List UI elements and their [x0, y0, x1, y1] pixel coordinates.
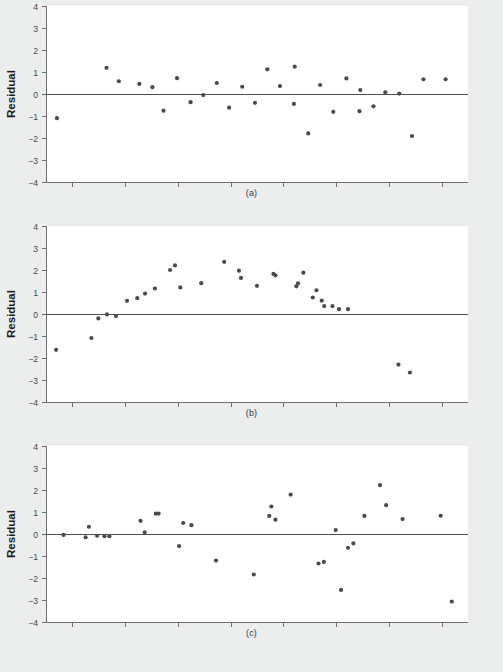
panel-a-xaxis	[46, 183, 468, 188]
data-point	[107, 534, 111, 538]
data-point	[316, 561, 320, 565]
panel-a-chart: Residual 4 3 2 1 0 −1 −2 −3 −4	[0, 0, 503, 196]
panel-c-ytick-4: 0	[33, 530, 38, 540]
data-point	[104, 66, 108, 70]
data-point	[322, 560, 326, 564]
data-point	[255, 284, 259, 288]
panel-b-yaxis: 4 3 2 1 0 −1 −2 −3 −4	[28, 222, 46, 408]
panel-b-xaxis	[46, 403, 468, 408]
data-point	[306, 131, 310, 135]
data-point	[150, 85, 154, 89]
panel-a: Residual 4 3 2 1 0 −1 −2 −3 −4	[0, 0, 503, 196]
panel-a-yaxis: 4 3 2 1 0 −1 −2 −3 −4	[28, 2, 46, 188]
data-point	[351, 541, 355, 545]
panel-c-ytick-6: −2	[28, 574, 38, 584]
data-point	[189, 523, 193, 527]
data-point	[240, 85, 244, 89]
data-point	[314, 288, 318, 292]
panel-a-ytick-6: −2	[28, 134, 38, 144]
panel-b-ytick-8: −4	[28, 398, 38, 408]
panel-b-chart: Residual 4 3 2 1 0 −1 −2 −3 −4	[0, 220, 503, 416]
data-point	[410, 134, 414, 138]
data-point	[89, 336, 93, 340]
data-point	[61, 533, 65, 537]
data-point	[292, 102, 296, 106]
data-point	[371, 104, 375, 108]
panel-b-ylabel: Residual	[5, 290, 17, 338]
data-point	[105, 312, 109, 316]
data-point	[214, 559, 218, 563]
panel-a-xticks	[73, 183, 443, 188]
panel-b-ytick-4: 0	[33, 310, 38, 320]
data-point	[199, 281, 203, 285]
panel-b-xticks	[73, 403, 443, 408]
panel-c-ylabel: Residual	[5, 510, 17, 558]
data-point	[301, 271, 305, 275]
data-point	[188, 100, 192, 104]
data-point	[153, 286, 157, 290]
data-point	[178, 285, 182, 289]
data-point	[346, 307, 350, 311]
data-point	[175, 76, 179, 80]
data-point	[444, 77, 448, 81]
panel-a-ytick-8: −4	[28, 178, 38, 188]
panel-c-xaxis	[46, 623, 468, 628]
data-point	[265, 67, 269, 71]
data-point	[137, 82, 141, 86]
data-point	[201, 93, 205, 97]
panel-c-xticks	[73, 623, 443, 628]
data-point	[138, 519, 142, 523]
data-point	[296, 281, 300, 285]
panel-b-ytick-2: 2	[33, 266, 38, 276]
panel-a-ytick-2: 2	[33, 46, 38, 56]
panel-a-ytick-5: −1	[28, 112, 38, 122]
data-point	[269, 504, 273, 508]
panel-a-ytick-1: 3	[33, 24, 38, 34]
data-point	[143, 291, 147, 295]
data-point	[344, 76, 348, 80]
panel-b-ytick-1: 3	[33, 244, 38, 254]
data-point	[222, 260, 226, 264]
panel-c-caption: (c)	[0, 628, 503, 638]
panel-c-ytick-1: 3	[33, 464, 38, 474]
data-point	[227, 106, 231, 110]
data-point	[331, 110, 335, 114]
data-point	[358, 88, 362, 92]
data-point	[362, 514, 366, 518]
data-point	[84, 535, 88, 539]
data-point	[273, 518, 277, 522]
data-point	[173, 263, 177, 267]
data-point	[143, 530, 147, 534]
panel-a-ylabel: Residual	[5, 70, 17, 118]
data-point	[177, 544, 181, 548]
data-point	[273, 273, 277, 277]
panel-a-caption: (a)	[0, 188, 503, 198]
panel-b-caption: (b)	[0, 408, 503, 418]
data-point	[157, 511, 161, 515]
data-point	[253, 101, 257, 105]
data-point	[267, 514, 271, 518]
data-point	[96, 316, 100, 320]
panel-b-ytick-7: −3	[28, 376, 38, 386]
data-point	[252, 572, 256, 576]
data-point	[311, 295, 315, 299]
data-point	[439, 514, 443, 518]
panel-a-ytick-0: 4	[33, 2, 38, 12]
panel-b-ytick-3: 1	[33, 288, 38, 298]
data-point	[55, 116, 59, 120]
data-point	[346, 546, 350, 550]
data-point	[357, 109, 361, 113]
figure-root: Residual 4 3 2 1 0 −1 −2 −3 −4	[0, 0, 503, 672]
data-point	[289, 493, 293, 497]
data-point	[339, 588, 343, 592]
panel-c-ytick-7: −3	[28, 596, 38, 606]
data-point	[114, 314, 118, 318]
data-point	[330, 304, 334, 308]
data-point	[450, 599, 454, 603]
data-point	[181, 521, 185, 525]
data-point	[87, 525, 91, 529]
panel-a-ytick-7: −3	[28, 156, 38, 166]
panel-b-ytick-6: −2	[28, 354, 38, 364]
data-point	[168, 268, 172, 272]
panel-c-ytick-8: −4	[28, 618, 38, 628]
